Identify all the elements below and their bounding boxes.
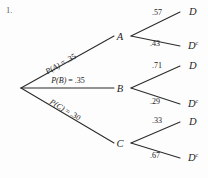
node-label-a: A <box>116 31 124 42</box>
probability-tree-diagram: 1. A B C P(A) = .35 P(B) = .35 P(C) = .3… <box>0 0 208 178</box>
outcome-label-a-dc: Dc <box>187 40 199 51</box>
cond-label-b-dc: .29 <box>150 97 160 106</box>
branch-label-p-b: P(B) = .35 <box>50 76 85 85</box>
branch-label-p-b-value: = .35 <box>66 76 85 85</box>
outcome-label-a-d: D <box>188 6 197 17</box>
branch-label-p-c-group: P(C) = .30 <box>47 97 82 123</box>
outcome-label-b-d: D <box>188 60 197 71</box>
outcome-label-c-dc: Dc <box>187 152 199 163</box>
cond-label-c-dc: .67 <box>150 151 160 160</box>
branch-label-p-c-value: = .30 <box>62 105 83 122</box>
cond-label-b-d: .71 <box>152 61 162 70</box>
node-label-c: C <box>116 138 124 149</box>
figure-container: 1. A B C P(A) = .35 P(B) = .35 P(C) = .3… <box>0 0 208 178</box>
outcome-label-c-dc-sup: c <box>196 152 199 158</box>
cond-label-a-d: .57 <box>152 8 162 17</box>
branch-label-p-a-value: = .35 <box>57 52 78 69</box>
cond-label-c-d: .33 <box>152 116 162 125</box>
branch-c-to-d <box>131 122 180 143</box>
branch-label-p-c: P(C) = .30 <box>47 97 82 123</box>
branch-label-p-a: P(A) = .35 <box>43 52 78 77</box>
outcome-label-b-dc-sup: c <box>196 98 199 104</box>
branch-label-p-b-group: P(B) = .35 <box>50 76 85 85</box>
outcome-label-b-dc: Dc <box>187 98 199 109</box>
node-label-b: B <box>117 83 124 94</box>
branch-label-p-a-group: P(A) = .35 <box>43 52 78 77</box>
branch-label-p-b-prefix: P(B) <box>50 76 66 85</box>
cond-label-a-dc: .43 <box>150 39 160 48</box>
outcome-label-c-d: D <box>188 116 197 127</box>
outcome-label-a-dc-sup: c <box>196 40 199 46</box>
item-number: 1. <box>6 5 12 15</box>
